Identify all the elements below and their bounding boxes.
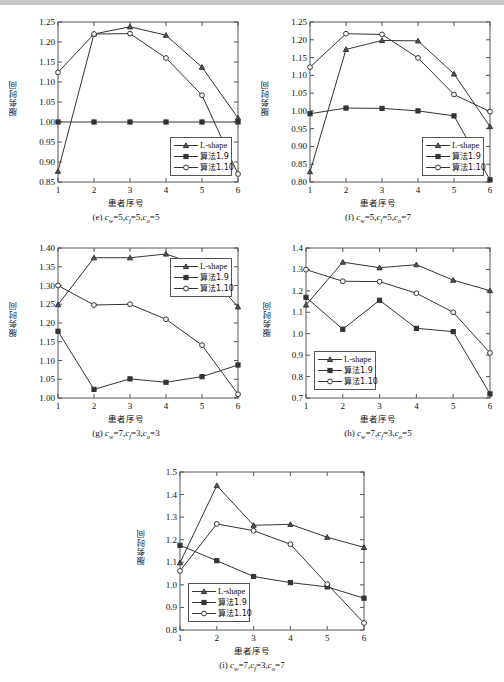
svg-text:6: 6 <box>362 633 367 643</box>
svg-text:1.5: 1.5 <box>166 467 178 477</box>
svg-text:1.2: 1.2 <box>166 535 177 545</box>
svg-text:1.25: 1.25 <box>39 17 55 27</box>
svg-text:1.4: 1.4 <box>166 490 178 500</box>
triangle-marker-icon <box>173 140 199 151</box>
svg-text:1.00: 1.00 <box>39 393 55 403</box>
svg-text:0.8: 0.8 <box>292 372 304 382</box>
chart-panel-i: 服务时间0.80.91.01.11.21.31.41.5123456患者序号L-… <box>126 452 378 682</box>
x-axis-label: 患者序号 <box>126 644 378 656</box>
legend-item: 算法1.9 <box>317 365 372 376</box>
square-marker-icon <box>425 151 451 162</box>
svg-text:2: 2 <box>215 633 220 643</box>
svg-text:6: 6 <box>488 185 493 195</box>
x-axis-label: 患者序号 <box>0 196 252 208</box>
svg-text:1.40: 1.40 <box>39 243 55 253</box>
circle-marker-icon <box>173 283 199 294</box>
svg-text:1.05: 1.05 <box>39 97 55 107</box>
svg-text:4: 4 <box>414 401 419 411</box>
svg-text:1.15: 1.15 <box>39 57 55 67</box>
svg-text:2: 2 <box>92 401 97 411</box>
triangle-marker-icon <box>317 354 343 365</box>
svg-text:4: 4 <box>164 401 169 411</box>
svg-text:1.00: 1.00 <box>291 106 307 116</box>
circle-marker-icon <box>191 608 217 619</box>
svg-text:1.25: 1.25 <box>291 17 307 27</box>
svg-text:1.15: 1.15 <box>291 53 307 63</box>
y-axis-label: 服务时间 <box>8 80 20 116</box>
chart-caption: (h) cw=7,cf=3,co=5 <box>252 428 504 440</box>
svg-text:6: 6 <box>236 401 241 411</box>
chart-panel-f: 服务时间0.800.850.900.951.001.051.101.151.20… <box>252 4 504 230</box>
svg-text:1: 1 <box>178 633 183 643</box>
svg-text:5: 5 <box>325 633 330 643</box>
svg-text:1.0: 1.0 <box>292 329 304 339</box>
square-marker-icon <box>317 365 343 376</box>
svg-text:1.3: 1.3 <box>166 512 178 522</box>
svg-text:1.20: 1.20 <box>291 35 307 45</box>
legend-item: 算法1.10 <box>173 283 228 294</box>
square-marker-icon <box>173 151 199 162</box>
legend-item: 算法1.9 <box>425 151 480 162</box>
svg-text:0.8: 0.8 <box>166 625 178 635</box>
svg-text:1: 1 <box>304 401 309 411</box>
chart-panel-g: 服务时间1.001.051.101.151.201.251.301.351.40… <box>0 232 252 444</box>
legend-label: 算法1.9 <box>451 151 481 162</box>
svg-text:0.90: 0.90 <box>291 141 307 151</box>
triangle-marker-icon <box>425 140 451 151</box>
chart-panel-e: 服务时间0.850.900.951.001.051.101.151.201.25… <box>0 4 252 230</box>
chart-caption: (f) cw=5,cf=5,co=7 <box>252 212 504 224</box>
svg-text:4: 4 <box>416 185 421 195</box>
y-axis-label: 服务时间 <box>136 529 148 565</box>
chart-caption: (i) cw=7,cf=3,co=7 <box>126 660 378 672</box>
svg-text:1: 1 <box>56 401 61 411</box>
svg-text:3: 3 <box>380 185 385 195</box>
svg-text:1.05: 1.05 <box>291 88 307 98</box>
svg-text:0.95: 0.95 <box>39 137 55 147</box>
triangle-marker-icon <box>173 261 199 272</box>
svg-text:2: 2 <box>341 401 346 411</box>
legend-item: L-shape <box>173 261 228 272</box>
svg-text:1.1: 1.1 <box>292 307 303 317</box>
svg-text:1.30: 1.30 <box>39 281 55 291</box>
svg-text:3: 3 <box>128 185 133 195</box>
svg-text:0.95: 0.95 <box>291 124 307 134</box>
svg-text:1.35: 1.35 <box>39 262 55 272</box>
circle-marker-icon <box>425 162 451 173</box>
svg-text:5: 5 <box>200 185 205 195</box>
svg-text:1: 1 <box>308 185 313 195</box>
legend-item: 算法1.9 <box>191 597 246 608</box>
legend-item: 算法1.10 <box>317 376 372 387</box>
square-marker-icon <box>173 272 199 283</box>
chart-legend: L-shape算法1.9算法1.10 <box>170 137 232 176</box>
svg-text:2: 2 <box>92 185 97 195</box>
svg-text:1.20: 1.20 <box>39 318 55 328</box>
svg-text:5: 5 <box>200 401 205 411</box>
chart-legend: L-shape算法1.9算法1.10 <box>188 583 250 622</box>
svg-text:1.25: 1.25 <box>39 299 55 309</box>
svg-text:0.9: 0.9 <box>292 350 304 360</box>
svg-text:3: 3 <box>128 401 133 411</box>
legend-label: 算法1.9 <box>343 365 373 376</box>
svg-text:4: 4 <box>288 633 293 643</box>
legend-label: 算法1.10 <box>199 283 234 294</box>
svg-text:0.90: 0.90 <box>39 157 55 167</box>
legend-label: L-shape <box>199 140 227 151</box>
legend-item: 算法1.9 <box>173 272 228 283</box>
legend-label: 算法1.9 <box>199 272 229 283</box>
svg-text:1.20: 1.20 <box>39 37 55 47</box>
svg-text:0.7: 0.7 <box>292 393 304 403</box>
svg-text:2: 2 <box>344 185 349 195</box>
triangle-marker-icon <box>191 586 217 597</box>
x-axis-label: 患者序号 <box>252 196 504 208</box>
legend-item: 算法1.10 <box>425 162 480 173</box>
svg-text:1: 1 <box>56 185 61 195</box>
svg-text:1.15: 1.15 <box>39 337 55 347</box>
y-axis-label: 服务时间 <box>262 301 274 337</box>
square-marker-icon <box>191 597 217 608</box>
svg-text:1.10: 1.10 <box>39 356 55 366</box>
svg-text:0.80: 0.80 <box>291 177 307 187</box>
legend-label: L-shape <box>343 354 371 365</box>
legend-item: L-shape <box>317 354 372 365</box>
svg-text:5: 5 <box>451 401 456 411</box>
svg-text:3: 3 <box>251 633 256 643</box>
